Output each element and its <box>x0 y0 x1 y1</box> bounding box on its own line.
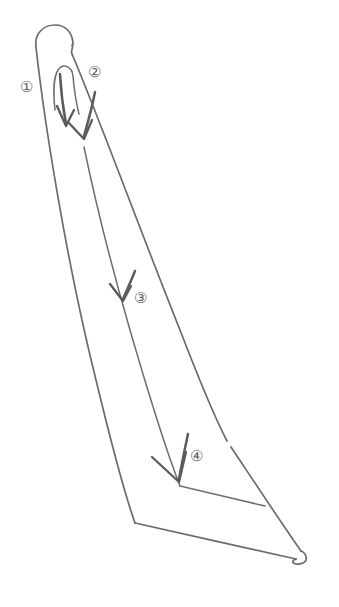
nib-dome-top-icon <box>36 25 73 47</box>
callout-label-1: ① <box>20 80 33 95</box>
nib-bottom-edge <box>135 523 296 559</box>
callout-label-2: ② <box>88 65 101 80</box>
callout-label-4: ④ <box>190 449 203 464</box>
callout-label-3: ③ <box>134 291 147 306</box>
nib-center-slit <box>84 147 180 486</box>
nib-right-edge-upper <box>72 54 227 441</box>
nib-outline-group <box>36 25 307 564</box>
nib-left-edge <box>36 47 135 523</box>
callout-arrows-group <box>57 74 188 482</box>
nib-tip-icon <box>293 551 307 564</box>
nib-sketch <box>0 0 339 607</box>
nib-bevel-line <box>180 486 265 506</box>
figure-canvas: ① ② ③ ④ <box>0 0 339 607</box>
nib-right-edge-lower <box>231 447 301 551</box>
nib-shoulder-notch-icon <box>71 45 72 54</box>
